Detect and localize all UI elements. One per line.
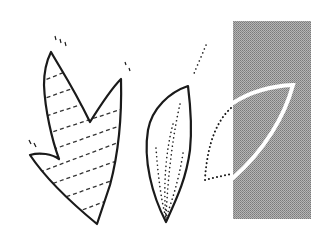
dotted-vein-leaf: [147, 45, 206, 222]
leaf-illustration: [0, 0, 327, 246]
striped-leaf: [29, 36, 130, 238]
panel-leaf: [205, 21, 311, 219]
gray-panel: [233, 21, 311, 219]
